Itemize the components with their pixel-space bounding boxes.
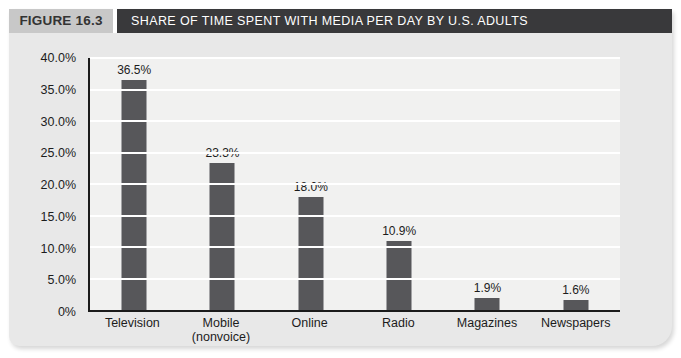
gridline [90, 120, 620, 122]
gridline [90, 246, 620, 248]
bar-value-label: 1.6% [512, 283, 640, 297]
category-label: Magazines [443, 316, 532, 344]
figure-card: FIGURE 16.3 SHARE OF TIME SPENT WITH MED… [9, 9, 672, 346]
figure-header: FIGURE 16.3 SHARE OF TIME SPENT WITH MED… [9, 9, 672, 33]
y-tick-label: 5.0% [48, 272, 77, 288]
category-label: Online [265, 316, 354, 344]
category-label: Radio [354, 316, 443, 344]
y-tick-label: 0% [58, 304, 76, 320]
figure-title: SHARE OF TIME SPENT WITH MEDIA PER DAY B… [117, 9, 672, 33]
bar [122, 80, 147, 310]
plot-area: 36.5%23.3%18.0%10.9%1.9%1.6% [88, 58, 620, 312]
category-label: Newspapers [531, 316, 620, 344]
bar [475, 298, 500, 310]
gridline [90, 215, 620, 217]
y-tick-label: 10.0% [41, 241, 76, 257]
y-tick-label: 15.0% [41, 209, 76, 225]
y-tick-label: 20.0% [41, 177, 76, 193]
page: FIGURE 16.3 SHARE OF TIME SPENT WITH MED… [0, 0, 681, 358]
gridline [90, 57, 620, 59]
category-label: Television [88, 316, 177, 344]
gridline [90, 152, 620, 154]
y-tick-label: 25.0% [41, 145, 76, 161]
figure-number-label: FIGURE 16.3 [9, 9, 113, 33]
bar [210, 163, 235, 310]
y-tick-label: 35.0% [41, 82, 76, 98]
x-axis-labels: TelevisionMobile (nonvoice)OnlineRadioMa… [88, 316, 620, 344]
y-axis: 0%5.0%10.0%15.0%20.0%25.0%30.0%35.0%40.0… [9, 58, 82, 312]
bar [563, 300, 588, 310]
gridline [90, 89, 620, 91]
gridline [90, 183, 620, 185]
bar [387, 241, 412, 310]
y-tick-label: 30.0% [41, 114, 76, 130]
category-label: Mobile (nonvoice) [177, 316, 266, 344]
gridline [90, 278, 620, 280]
